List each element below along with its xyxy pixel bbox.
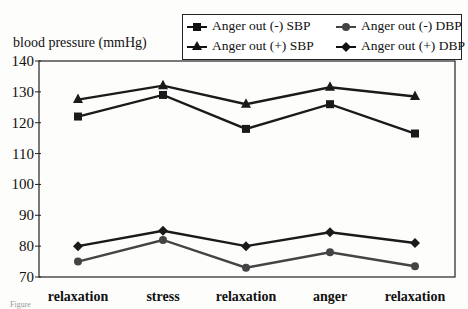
series-anger-out-dbp: [74, 236, 419, 272]
x-tick-label: anger: [313, 289, 347, 304]
y-tick-label: 70: [19, 269, 34, 285]
figure-caption: Figure: [10, 300, 31, 309]
x-tick-label: relaxation: [216, 289, 277, 304]
legend-item-anger-out-neg-sbp: Anger out (-) SBP: [212, 18, 311, 34]
y-tick-label: 110: [12, 146, 34, 162]
series-anger-out-sbp: [74, 91, 419, 138]
x-tick-label: relaxation: [385, 289, 446, 304]
series-anger-out-dbp: [73, 226, 420, 251]
y-tick-label: 100: [12, 176, 35, 192]
legend-item-anger-out-pos-dbp: Anger out (+) DBP: [361, 38, 465, 54]
legend-item-anger-out-pos-sbp: Anger out (+) SBP: [212, 38, 314, 54]
y-axis-label: blood pressure (mmHg): [13, 35, 147, 51]
x-tick-label: stress: [146, 289, 180, 304]
x-tick-label: relaxation: [48, 289, 109, 304]
y-tick-label: 130: [12, 84, 35, 100]
legend-item-anger-out-neg-dbp: Anger out (-) DBP: [361, 18, 462, 34]
y-tick-label: 80: [19, 238, 34, 254]
legend: Anger out (-) SBP Anger out (-) DBP Ange…: [182, 14, 462, 60]
y-tick-label: 90: [19, 207, 34, 223]
y-tick-label: 140: [12, 53, 35, 69]
y-tick-label: 120: [12, 115, 35, 131]
